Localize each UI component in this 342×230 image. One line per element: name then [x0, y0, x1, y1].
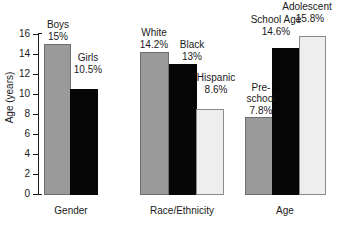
bar-label-boys-name: Boys — [40, 19, 76, 30]
bar-label-black-pct: 13% — [172, 51, 212, 62]
y-tick-2: 2 — [0, 174, 38, 175]
y-tick-16: 16 — [0, 34, 38, 35]
group-label-age: Age — [248, 205, 322, 216]
y-tick-label-6: 6 — [10, 129, 30, 139]
y-tick-0: 0 — [0, 194, 38, 195]
bar-label-preschool-pct: 7.8% — [244, 105, 278, 116]
y-tick-10: 10 — [0, 94, 38, 95]
y-tick-14: 14 — [0, 54, 38, 55]
y-tick-label-4: 4 — [10, 149, 30, 159]
group-label-gender: Gender — [34, 205, 108, 216]
bar-label-adolescent-pct: 15.8% — [280, 13, 340, 24]
y-tick-label-10: 10 — [10, 89, 30, 99]
y-tick-label-16: 16 — [10, 29, 30, 39]
bar-adolescent — [299, 36, 326, 195]
bar-chart: Age (years) 16 14 12 10 8 6 4 2 0 Boys 1… — [0, 0, 342, 230]
bar-label-preschool-name: Pre- school — [244, 82, 278, 104]
bar-label-white-pct: 14.2% — [130, 39, 178, 50]
y-tick-label-8: 8 — [10, 109, 30, 119]
bar-label-boys-pct: 15% — [40, 31, 76, 42]
y-tick-label-14: 14 — [10, 49, 30, 59]
bar-label-girls-name: Girls — [68, 52, 108, 63]
y-tick-label-12: 12 — [10, 69, 30, 79]
y-tick-label-0: 0 — [10, 189, 30, 199]
bar-label-adolescent-name: Adolescent — [274, 1, 340, 12]
y-axis-bottom-cap — [38, 194, 42, 195]
bar-label-black-name: Black — [172, 39, 212, 50]
bar-label-white-name: White — [134, 27, 174, 38]
bar-preschool — [245, 117, 273, 195]
bar-hispanic — [196, 109, 224, 195]
bar-school-age — [272, 48, 300, 195]
bar-white — [140, 52, 169, 195]
y-axis-line — [38, 33, 39, 195]
bar-label-girls-pct: 10.5% — [66, 64, 110, 75]
bar-label-hispanic-pct: 8.6% — [190, 84, 242, 95]
bar-label-hispanic-name: Hispanic — [190, 72, 242, 83]
y-tick-6: 6 — [0, 134, 38, 135]
y-tick-label-2: 2 — [10, 169, 30, 179]
y-tick-4: 4 — [0, 154, 38, 155]
y-tick-12: 12 — [0, 74, 38, 75]
group-label-race: Race/Ethnicity — [134, 205, 230, 216]
bar-girls — [70, 89, 98, 195]
y-tick-8: 8 — [0, 114, 38, 115]
bar-label-school-age-pct: 14.6% — [246, 26, 306, 37]
